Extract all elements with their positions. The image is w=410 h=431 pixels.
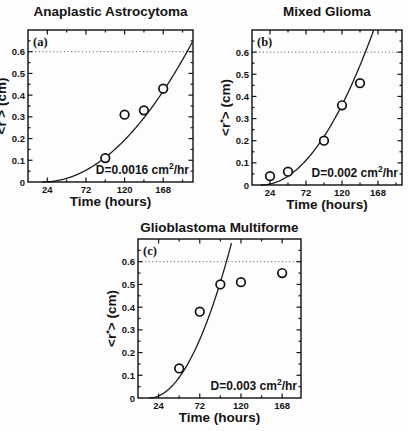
y-tick-label: 0.3 — [122, 324, 135, 335]
x-tick-label: 24 — [265, 187, 276, 198]
y-tick-label: 0.6 — [12, 46, 25, 57]
x-tick-label: 24 — [42, 184, 53, 195]
x-axis-label: Time (hours) — [286, 197, 368, 212]
y-tick-label: 0.1 — [12, 155, 26, 166]
y-tick-label: 0.5 — [122, 279, 136, 290]
data-point — [237, 278, 246, 287]
glioma-growth-figure: Anaplastic Astrocytoma247212016800.10.20… — [0, 0, 410, 431]
diffusion-annotation: D=0.002 cm2/hr — [312, 164, 399, 180]
data-point — [216, 280, 225, 289]
data-point — [159, 84, 168, 93]
y-tick-label: 0.2 — [236, 135, 249, 146]
data-point — [320, 136, 329, 145]
y-tick-label: 0.5 — [236, 69, 250, 80]
data-point — [140, 106, 149, 115]
chart-title: Anaplastic Astrocytoma — [33, 4, 188, 19]
y-tick-label: 0.1 — [236, 157, 250, 168]
data-point — [278, 269, 287, 278]
y-tick-label: 0.4 — [12, 90, 26, 101]
chart-title: Mixed Glioma — [283, 4, 371, 19]
data-point — [338, 101, 347, 110]
panel-letter: (a) — [33, 35, 48, 49]
x-tick-label: 168 — [274, 400, 290, 411]
y-tick-label: 0.4 — [236, 91, 250, 102]
x-tick-label: 24 — [153, 400, 164, 411]
fit-curve — [261, 31, 374, 185]
panel-b-chart: Mixed Glioma247212016800.10.20.30.40.50.… — [205, 0, 410, 215]
diffusion-annotation: D=0.0016 cm2/hr — [96, 161, 189, 177]
y-tick-label: 0.3 — [236, 113, 249, 124]
chart-title: Glioblastoma Multiforme — [140, 220, 299, 235]
y-tick-label: 0.4 — [122, 302, 136, 313]
x-axis-label: Time (hours) — [70, 194, 152, 209]
fit-curve — [149, 243, 231, 398]
data-point — [101, 154, 110, 163]
x-tick-label: 168 — [370, 187, 386, 198]
y-tick-label: 0.6 — [122, 256, 135, 267]
y-tick-label: 0 — [244, 180, 249, 191]
y-tick-label: 0 — [20, 177, 25, 188]
y-tick-label: 0.6 — [236, 47, 249, 58]
panel-letter: (b) — [257, 35, 272, 49]
y-axis-label: <r*> (cm) — [218, 79, 233, 136]
y-tick-label: 0.2 — [122, 347, 135, 358]
data-point — [175, 364, 184, 373]
data-point — [120, 110, 129, 119]
axes-box — [138, 239, 301, 398]
x-axis-label: Time (hours) — [179, 410, 261, 425]
data-point — [266, 172, 275, 181]
y-tick-label: 0.1 — [122, 370, 136, 381]
x-tick-label: 168 — [155, 184, 171, 195]
data-point — [284, 167, 293, 176]
y-axis-label: <r*> (cm) — [0, 78, 9, 135]
axes-box — [252, 30, 402, 185]
y-axis-label: <r*> (cm) — [104, 290, 119, 347]
y-tick-label: 0.5 — [12, 68, 26, 79]
data-point — [195, 307, 204, 316]
y-tick-label: 0.3 — [12, 111, 25, 122]
data-point — [356, 79, 365, 88]
panel-a-chart: Anaplastic Astrocytoma247212016800.10.20… — [0, 0, 205, 215]
panel-c-chart: Glioblastoma Multiforme247212016800.10.2… — [60, 215, 350, 431]
panel-letter: (c) — [143, 244, 157, 258]
y-tick-label: 0 — [130, 393, 135, 404]
axes-box — [28, 30, 193, 182]
y-tick-label: 0.2 — [12, 133, 25, 144]
diffusion-annotation: D=0.003 cm2/hr — [211, 377, 298, 393]
